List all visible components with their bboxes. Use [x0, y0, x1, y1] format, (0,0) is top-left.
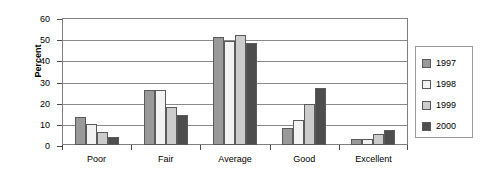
- x-tick-label: Excellent: [355, 154, 392, 164]
- gridline: [63, 40, 407, 41]
- legend-swatch-icon: [422, 101, 431, 110]
- x-tick-label: Poor: [87, 154, 106, 164]
- legend-swatch-icon: [422, 122, 431, 131]
- x-axis: PoorFairAverageGoodExcellent: [62, 145, 408, 175]
- legend-swatch-icon: [422, 80, 431, 89]
- gridline: [63, 83, 407, 84]
- x-tick-mark: [407, 145, 408, 150]
- y-axis: 0102030405060: [0, 18, 62, 146]
- x-tick-label: Good: [293, 154, 315, 164]
- y-tick-label: 60: [40, 14, 50, 24]
- y-tick-label: 10: [40, 120, 50, 130]
- plot-area: [62, 18, 408, 145]
- x-tick-label: Fair: [158, 154, 174, 164]
- x-tick-mark: [270, 145, 271, 150]
- legend-item-label: 2000: [436, 122, 456, 131]
- y-tick-label: 30: [40, 78, 50, 88]
- legend-item[interactable]: 1997: [422, 53, 472, 74]
- legend-swatch-icon: [422, 59, 431, 68]
- x-tick-mark: [200, 145, 201, 150]
- x-tick-mark: [339, 145, 340, 150]
- legend-item-label: 1999: [436, 101, 456, 110]
- legend-item[interactable]: 1998: [422, 74, 472, 95]
- x-tick-mark: [131, 145, 132, 150]
- legend-item[interactable]: 2000: [422, 116, 472, 137]
- legend-item-label: 1998: [436, 80, 456, 89]
- y-tick-label: 50: [40, 35, 50, 45]
- gridline: [63, 104, 407, 105]
- gridline: [63, 125, 407, 126]
- y-tick-label: 40: [40, 56, 50, 66]
- y-tick-label: 0: [45, 141, 50, 151]
- gridline: [63, 61, 407, 62]
- legend: 1997199819992000: [415, 46, 473, 138]
- legend-item[interactable]: 1999: [422, 95, 472, 116]
- x-tick-label: Average: [218, 154, 251, 164]
- legend-item-label: 1997: [436, 59, 456, 68]
- bar-chart: Percent 0102030405060 PoorFairAverageGoo…: [0, 0, 481, 195]
- y-tick-label: 20: [40, 99, 50, 109]
- x-tick-mark: [62, 145, 63, 150]
